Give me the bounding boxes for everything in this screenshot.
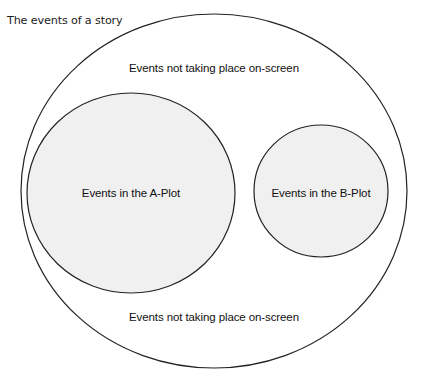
figure-caption: The events of a story (7, 14, 123, 27)
region-label-offscreen-top: Events not taking place on-screen (129, 62, 299, 74)
region-label-b-plot: Events in the B-Plot (272, 187, 371, 199)
region-label-a-plot: Events in the A-Plot (82, 187, 180, 199)
region-label-offscreen-bottom: Events not taking place on-screen (129, 311, 299, 323)
venn-diagram: The events of a story Events not taking … (0, 0, 424, 379)
